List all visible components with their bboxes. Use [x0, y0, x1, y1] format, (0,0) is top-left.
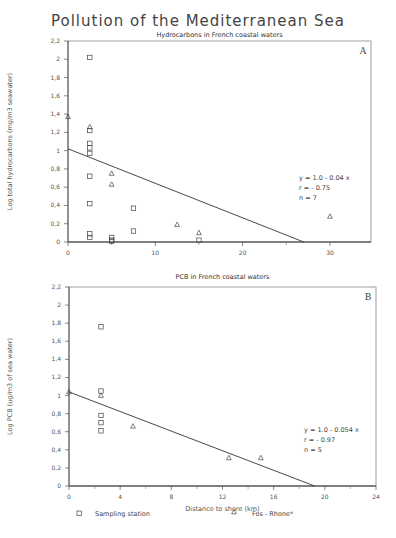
square-marker	[131, 229, 135, 233]
y-tick-label: 1,2	[51, 373, 61, 380]
square-marker	[88, 141, 92, 145]
y-tick-label: 0,6	[50, 183, 60, 190]
plot-frame	[68, 41, 371, 242]
y-tick-label: 1,6	[51, 337, 61, 344]
regression-equation: y = 1.0 - 0.054 x	[304, 426, 359, 434]
square-marker	[88, 174, 92, 178]
x-tick-label: 12	[219, 493, 227, 500]
x-tick-label: 4	[118, 493, 122, 500]
square-marker	[88, 201, 92, 205]
regression-n: n = 5	[304, 446, 322, 454]
x-tick-label: 0	[67, 493, 71, 500]
y-tick-label: 0,2	[50, 220, 60, 227]
regression-r: r = - 0.97	[304, 436, 335, 444]
x-tick-label: 20	[239, 249, 247, 256]
triangle-marker	[197, 230, 202, 234]
y-tick-label: 0,8	[50, 165, 60, 172]
x-axis-label: Distance to shore (km)	[185, 505, 259, 513]
y-tick-label: 0	[56, 238, 60, 245]
square-marker	[88, 146, 92, 150]
y-tick-label: 2,2	[50, 37, 60, 44]
regression-r: r = - 0.75	[299, 184, 330, 192]
y-tick-label: 0,2	[51, 464, 61, 471]
regression-n: n = 7	[299, 194, 317, 202]
panel-label: A	[359, 46, 367, 56]
triangle-marker	[175, 222, 180, 226]
y-tick-label: 0,6	[51, 428, 61, 435]
panel-label: B	[365, 292, 372, 302]
square-marker	[99, 420, 103, 424]
y-tick-label: 1,4	[51, 355, 61, 362]
chart-panel-a: Hydrocarbons in French coastal watersA00…	[6, 31, 371, 256]
y-tick-label: 1	[56, 147, 60, 154]
square-marker	[99, 325, 103, 329]
square-marker	[88, 55, 92, 59]
triangle-marker	[328, 214, 333, 218]
chart-canvas: Hydrocarbons in French coastal watersA00…	[0, 0, 396, 538]
x-tick-label: 10	[151, 249, 159, 256]
triangle-marker	[109, 171, 114, 175]
y-axis-label: Log total hydrocarbons (mg/m3 seawater)	[6, 73, 14, 210]
y-tick-label: 1,4	[50, 110, 60, 117]
chart-panel-b: PCB in French coastal watersB00,20,40,60…	[6, 273, 380, 513]
square-marker	[131, 206, 135, 210]
y-tick-label: 1,8	[51, 319, 61, 326]
chart-subtitle: PCB in French coastal waters	[176, 273, 270, 281]
y-tick-label: 2	[57, 301, 61, 308]
x-tick-label: 30	[326, 249, 334, 256]
square-marker	[88, 151, 92, 155]
legend-square-icon	[77, 511, 81, 515]
y-tick-label: 0,4	[51, 446, 61, 453]
y-tick-label: 1,8	[50, 74, 60, 81]
x-tick-label: 8	[169, 493, 173, 500]
triangle-marker	[258, 455, 263, 459]
y-tick-label: 1	[57, 392, 61, 399]
plot-frame	[69, 287, 376, 486]
triangle-marker	[99, 393, 104, 397]
y-tick-label: 2	[56, 55, 60, 62]
y-tick-label: 0,8	[51, 410, 61, 417]
triangle-marker	[131, 424, 136, 428]
regression-line	[69, 392, 315, 486]
legend-triangle-label: Fos - Rhone*	[252, 510, 294, 518]
regression-line	[68, 149, 304, 242]
triangle-marker	[226, 455, 231, 459]
regression-equation: y = 1.0 - 0.04 x	[299, 174, 350, 182]
y-axis-label: Log PCB (ug/m3 of sea water)	[6, 338, 14, 435]
y-tick-label: 0,4	[50, 201, 60, 208]
triangle-marker	[109, 182, 114, 186]
chart-subtitle: Hydrocarbons in French coastal waters	[156, 31, 283, 39]
y-tick-label: 1,6	[50, 92, 60, 99]
x-tick-label: 16	[270, 493, 278, 500]
x-tick-label: 24	[372, 493, 380, 500]
square-marker	[99, 413, 103, 417]
y-tick-label: 0	[57, 482, 61, 489]
y-tick-label: 1,2	[50, 128, 60, 135]
y-tick-label: 2,2	[51, 283, 61, 290]
square-marker	[99, 429, 103, 433]
x-tick-label: 20	[321, 493, 329, 500]
legend-square-label: Sampling station	[95, 510, 150, 518]
x-tick-label: 0	[66, 249, 70, 256]
